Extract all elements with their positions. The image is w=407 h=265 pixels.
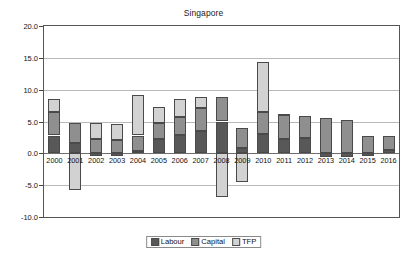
bar-segment-tfp [90, 123, 102, 138]
x-tick-label: 2012 [297, 156, 313, 165]
legend-label: TFP [242, 238, 256, 246]
bar-segment-labour [383, 150, 395, 154]
bar-group [174, 26, 186, 217]
bar-group [383, 26, 395, 217]
bar-segment-labour [48, 136, 60, 154]
bar-segment-capital [278, 115, 290, 139]
bar-segment-labour [299, 138, 311, 153]
bar-segment-capital [153, 123, 165, 138]
legend-item-capital[interactable]: Capital [191, 238, 225, 246]
bar-segment-capital [48, 112, 60, 136]
bar-group [48, 26, 60, 217]
bar-segment-capital [216, 97, 228, 121]
x-tick-label: 2016 [380, 156, 396, 165]
legend-item-labour[interactable]: Labour [151, 238, 185, 246]
y-tick-label: 5.0 [2, 117, 38, 126]
bar-segment-labour [153, 139, 165, 154]
x-tick-label: 2002 [88, 156, 104, 165]
y-tick-label: -5.0 [2, 181, 38, 190]
bar-group [195, 26, 207, 217]
bar-segment-capital [320, 118, 332, 154]
legend-item-tfp[interactable]: TFP [232, 238, 256, 246]
bar-segment-capital [174, 117, 186, 135]
bar-segment-labour [174, 135, 186, 153]
legend-label: Labour [161, 238, 185, 246]
bar-group [216, 26, 228, 217]
x-tick-label: 2004 [130, 156, 146, 165]
bar-segment-labour [257, 134, 269, 153]
x-tick-label: 2011 [276, 156, 292, 165]
bar-segment-capital [132, 136, 144, 152]
y-tick-mark [39, 58, 43, 59]
legend-label: Capital [201, 238, 225, 246]
bar-group [299, 26, 311, 217]
bar-segment-capital [362, 136, 374, 154]
x-tick-label: 2007 [192, 156, 208, 165]
bar-group [320, 26, 332, 217]
bar-group [153, 26, 165, 217]
x-tick-label: 2005 [151, 156, 167, 165]
bar-segment-tfp [257, 62, 269, 112]
bar-segment-tfp [278, 114, 290, 116]
bar-group [341, 26, 353, 217]
bar-group [257, 26, 269, 217]
legend-swatch-icon [151, 238, 159, 246]
x-tick-label: 2003 [109, 156, 125, 165]
bar-group [132, 26, 144, 217]
bar-segment-capital [236, 128, 248, 148]
legend-swatch-icon [232, 238, 240, 246]
bar-segment-tfp [174, 99, 186, 117]
x-tick-label: 2010 [255, 156, 271, 165]
bar-segment-tfp [111, 124, 123, 140]
y-tick-mark [39, 90, 43, 91]
y-tick-mark [39, 185, 43, 186]
bar-segment-capital [257, 112, 269, 134]
y-tick-label: -10.0 [2, 213, 38, 222]
bar-segment-capital [90, 139, 102, 154]
y-tick-label: 10.0 [2, 85, 38, 94]
x-tick-label: 2000 [46, 156, 62, 165]
bar-segment-tfp [132, 95, 144, 136]
chart-title: Singapore [0, 8, 407, 18]
bar-segment-tfp [195, 97, 207, 108]
y-tick-label: 15.0 [2, 53, 38, 62]
x-tick-label: 2009 [234, 156, 250, 165]
y-tick-label: 20.0 [2, 22, 38, 31]
bar-group [362, 26, 374, 217]
bar-segment-labour [132, 151, 144, 153]
x-tick-label: 2015 [360, 156, 376, 165]
x-tick-label: 2013 [318, 156, 334, 165]
bar-segment-capital [383, 136, 395, 149]
bar-group [111, 26, 123, 217]
bar-group [90, 26, 102, 217]
x-tick-label: 2006 [172, 156, 188, 165]
y-tick-mark [39, 153, 43, 154]
bar-segment-tfp [153, 107, 165, 124]
bar-segment-capital [69, 123, 81, 143]
bar-segment-labour [216, 122, 228, 154]
legend-swatch-icon [191, 238, 199, 246]
y-tick-mark [39, 217, 43, 218]
bar-segment-labour [195, 131, 207, 153]
bar-segment-labour [69, 143, 81, 154]
bar-segment-capital [341, 120, 353, 153]
bar-group [69, 26, 81, 217]
bar-segment-tfp [48, 99, 60, 112]
x-tick-label: 2001 [67, 156, 83, 165]
bar-segment-capital [111, 140, 123, 153]
bar-group [278, 26, 290, 217]
y-tick-label: 0.0 [2, 149, 38, 158]
chart-container: Singapore 20.015.010.05.00.0-5.0-10.0 20… [0, 0, 407, 265]
bar-segment-capital [195, 108, 207, 131]
bar-segment-labour [278, 139, 290, 153]
bar-group [236, 26, 248, 217]
x-tick-label: 2014 [339, 156, 355, 165]
x-tick-label: 2008 [213, 156, 229, 165]
y-tick-mark [39, 122, 43, 123]
y-tick-mark [39, 26, 43, 27]
bars-layer [44, 26, 399, 217]
chart-legend: LabourCapitalTFP [146, 236, 262, 248]
bar-segment-capital [299, 116, 311, 138]
